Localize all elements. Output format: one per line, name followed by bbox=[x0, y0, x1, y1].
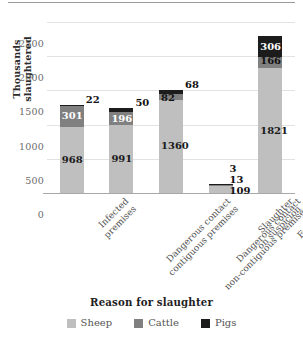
value-label-pigs-4: 3 bbox=[230, 164, 237, 174]
bar-segment-pigs-1[interactable] bbox=[60, 105, 84, 107]
value-label-cattle-4: 13 bbox=[230, 175, 244, 185]
value-label-pigs-2: 50 bbox=[135, 98, 149, 108]
header-divider bbox=[8, 2, 295, 3]
gridline-2500 bbox=[47, 22, 295, 23]
y-axis-tick-labels: 2500 2000 1500 1000 500 0 bbox=[0, 22, 44, 193]
legend-swatch-sheep-icon bbox=[67, 319, 76, 328]
legend-label-sheep: Sheep bbox=[81, 318, 113, 328]
y-tick-1000: 1000 bbox=[0, 142, 44, 152]
x-axis-tick-labels: InfectedpremisesDangerous contactcontigu… bbox=[47, 196, 295, 288]
x-axis-line bbox=[43, 193, 295, 194]
value-label-pigs-5: 306 bbox=[260, 42, 281, 52]
value-label-cattle-1: 301 bbox=[62, 111, 83, 121]
value-label-sheep-5: 1821 bbox=[260, 126, 288, 136]
legend-label-cattle: Cattle bbox=[148, 318, 179, 328]
value-label-pigs-1: 22 bbox=[86, 95, 100, 105]
y-tick-0: 0 bbox=[0, 210, 44, 220]
bar-segment-pigs-2[interactable] bbox=[109, 108, 133, 111]
y-tick-2500: 2500 bbox=[0, 39, 44, 49]
value-label-sheep-3: 1360 bbox=[161, 141, 189, 151]
value-label-sheep-4: 109 bbox=[230, 186, 251, 196]
value-label-pigs-3: 68 bbox=[185, 80, 199, 90]
value-label-sheep-2: 991 bbox=[111, 154, 132, 164]
plot-area: 9683012299119650136082683131091821166306 bbox=[47, 22, 295, 193]
y-tick-1500: 1500 bbox=[0, 107, 44, 117]
y-tick-2000: 2000 bbox=[0, 73, 44, 83]
value-label-cattle-5: 166 bbox=[260, 56, 281, 66]
legend-swatch-cattle-icon bbox=[134, 319, 143, 328]
chart-legend: Sheep Cattle Pigs bbox=[0, 318, 303, 328]
legend-item-pigs[interactable]: Pigs bbox=[201, 318, 236, 328]
chart-figure: Thousands slaughtered 2500 2000 1500 100… bbox=[0, 0, 303, 343]
x-tick-label-2-line-1: Dangerous contact bbox=[159, 196, 233, 270]
legend-swatch-pigs-icon bbox=[201, 319, 210, 328]
y-tick-500: 500 bbox=[0, 176, 44, 186]
value-label-sheep-1: 968 bbox=[62, 155, 83, 165]
legend-item-cattle[interactable]: Cattle bbox=[134, 318, 179, 328]
x-axis-title: Reason for slaughter bbox=[0, 296, 303, 308]
legend-label-pigs: Pigs bbox=[215, 318, 236, 328]
value-label-cattle-2: 196 bbox=[111, 114, 132, 124]
legend-item-sheep[interactable]: Sheep bbox=[67, 318, 113, 328]
value-label-cattle-3: 82 bbox=[161, 93, 175, 103]
x-tick-label-1: Infectedpremises bbox=[94, 196, 138, 240]
